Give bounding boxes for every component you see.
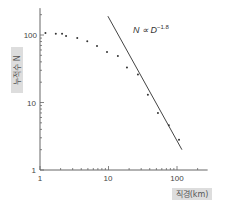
axis-ticks (40, 15, 198, 170)
data-point (65, 35, 67, 37)
y-tick-label-10: 10 (27, 99, 36, 108)
data-point (178, 139, 180, 141)
y-axis-label: 누적수 N (12, 55, 22, 85)
data-point (147, 94, 149, 96)
power-law-exponent: −1.8 (157, 24, 170, 30)
data-point (117, 55, 119, 57)
power-law-annotation: N ∝ D (133, 25, 158, 35)
axes (40, 8, 208, 170)
data-points (44, 32, 180, 141)
data-point (168, 124, 170, 126)
x-tick-label-100: 100 (170, 174, 184, 183)
log-log-chart: 누적수 N 직경(km) 1 10 100 1 10 100 N ∝ D −1.… (0, 0, 242, 210)
data-point (126, 67, 128, 69)
y-tick-label-100: 100 (24, 31, 38, 40)
data-point (157, 112, 159, 114)
data-point (55, 33, 57, 35)
data-point (106, 51, 108, 53)
x-tick-label-10: 10 (104, 174, 113, 183)
data-point (76, 37, 78, 39)
data-point (96, 45, 98, 47)
data-point (44, 32, 46, 34)
power-law-fit-line (108, 16, 182, 149)
data-point (61, 33, 63, 35)
y-tick-label-1: 1 (32, 166, 37, 175)
data-point (137, 73, 139, 75)
x-axis-label: 직경(km) (176, 189, 209, 199)
x-tick-label-1: 1 (38, 174, 43, 183)
data-point (86, 40, 88, 42)
